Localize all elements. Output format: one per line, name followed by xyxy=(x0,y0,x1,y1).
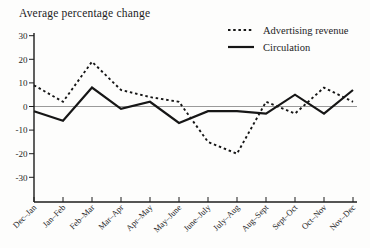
series-advertising-revenue xyxy=(34,62,353,154)
x-tick-label: Feb–Mar xyxy=(67,202,96,231)
x-tick-label: July–Aug xyxy=(211,202,242,233)
y-tick-label: 0 xyxy=(23,102,28,112)
x-tick-label: Oct–Nov xyxy=(299,202,329,232)
x-tick-label: Jan–Feb xyxy=(40,202,67,229)
x-tick-label: Aug–Sept xyxy=(239,202,271,234)
x-tick-label: May–June xyxy=(151,202,183,234)
y-tick-label: -10 xyxy=(16,125,28,135)
y-tick-label: 30 xyxy=(19,31,29,41)
x-tick-label: Apr–May xyxy=(124,202,155,233)
x-tick-label: Nov–Dec xyxy=(327,202,357,232)
y-tick-label: 20 xyxy=(19,55,29,65)
x-tick-label: June–July xyxy=(181,202,213,234)
x-tick-label: Mar–Apr xyxy=(96,202,126,232)
x-tick-label: Sept–Oct xyxy=(270,202,300,232)
x-tick-label: Dec–Jan xyxy=(11,202,39,230)
plot-svg: 3020100-10-20-30Dec–JanJan–FebFeb–MarMar… xyxy=(0,0,370,248)
y-tick-label: -30 xyxy=(16,173,28,183)
y-tick-label: 10 xyxy=(19,78,29,88)
y-tick-label: -20 xyxy=(16,149,28,159)
line-chart-figure: Average percentage change Advertising re… xyxy=(0,0,370,248)
